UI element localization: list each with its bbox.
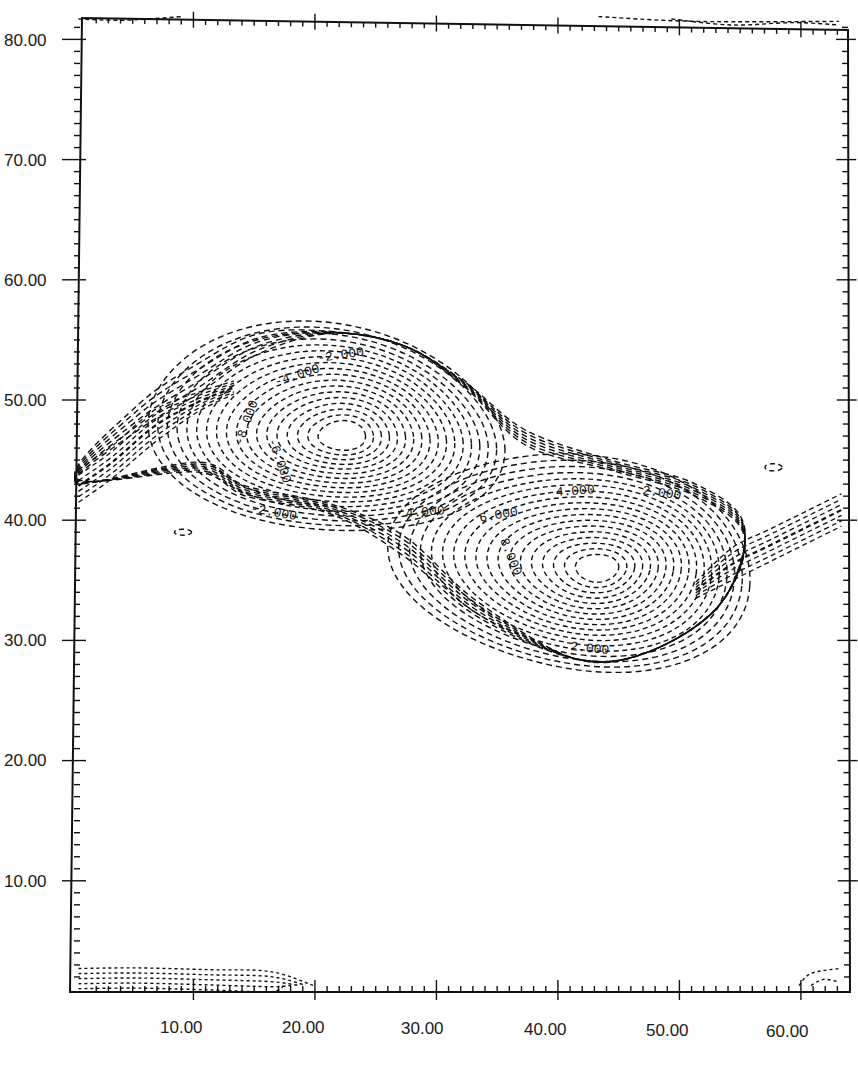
contour-line bbox=[811, 979, 839, 985]
plot-frame bbox=[70, 18, 850, 992]
x-tick-label: 10.00 bbox=[160, 1018, 203, 1037]
contour-line bbox=[79, 383, 235, 475]
y-tick-label: 30.00 bbox=[4, 631, 47, 650]
y-tick-label: 40.00 bbox=[4, 511, 47, 530]
contour-line bbox=[79, 973, 306, 985]
contour-line bbox=[543, 537, 643, 598]
y-tick-label: 60.00 bbox=[4, 271, 47, 290]
contour-label: -4.000 bbox=[273, 361, 322, 390]
x-tick-label: 40.00 bbox=[524, 1020, 567, 1039]
y-tick-label: 80.00 bbox=[4, 31, 47, 50]
contour-label: 2.000 bbox=[570, 639, 610, 658]
x-tick-label: 60.00 bbox=[766, 1022, 809, 1041]
contour-line bbox=[599, 17, 840, 22]
x-tick-label: 20.00 bbox=[282, 1018, 325, 1037]
contour-line bbox=[498, 514, 674, 619]
contour-line bbox=[765, 464, 782, 471]
contour-line bbox=[318, 421, 365, 451]
y-tick-label: 10.00 bbox=[4, 872, 47, 891]
contour-line bbox=[187, 345, 472, 511]
x-tick-label: 30.00 bbox=[401, 1019, 444, 1038]
contour-line bbox=[799, 969, 839, 986]
contour-line bbox=[575, 555, 618, 583]
contour-lines bbox=[75, 17, 842, 992]
y-tick-label: 20.00 bbox=[4, 751, 47, 770]
contour-plot: 80.00 70.00 60.00 50.00 40.00 30.00 20.0… bbox=[0, 0, 858, 1073]
contour-line bbox=[297, 409, 381, 460]
contour-label: -2.000 bbox=[316, 345, 364, 366]
contour-line bbox=[175, 529, 192, 535]
contour-line bbox=[696, 499, 842, 585]
contour-line bbox=[277, 398, 398, 470]
contour-line bbox=[520, 526, 658, 609]
y-axis: 80.00 70.00 60.00 50.00 40.00 30.00 20.0… bbox=[4, 27, 858, 977]
x-tick-label: 50.00 bbox=[646, 1021, 689, 1040]
y-tick-label: 50.00 bbox=[4, 391, 47, 410]
contour-line bbox=[554, 543, 635, 593]
contour-line bbox=[79, 983, 292, 987]
contour-label: 4.000 bbox=[555, 482, 595, 500]
contour-label: 6.000 bbox=[478, 504, 519, 526]
contour-line bbox=[696, 515, 842, 593]
y-tick-label: 70.00 bbox=[4, 151, 47, 170]
contour-line bbox=[226, 368, 438, 492]
contour-label: 4.000 bbox=[405, 503, 445, 521]
